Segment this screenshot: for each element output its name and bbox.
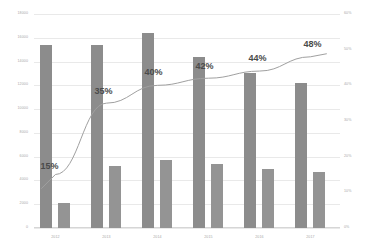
data-label-percent: 15% xyxy=(40,161,58,170)
y2-axis-tick-label: 50% xyxy=(344,48,366,52)
x-axis-tick-label: 2015 xyxy=(204,236,212,240)
y-axis-tick-label: 6000 xyxy=(0,155,28,159)
data-label-percent: 35% xyxy=(94,87,112,96)
data-label-percent: 40% xyxy=(144,68,162,77)
data-label-percent: 42% xyxy=(195,62,213,71)
x-axis-tick-label: 2016 xyxy=(255,236,263,240)
y-axis-tick-label: 16000 xyxy=(0,36,28,40)
trend-line[interactable] xyxy=(41,54,326,189)
combo-chart: 1800016000140001200010000800060004000200… xyxy=(0,0,368,252)
y-axis-tick-label: 0 xyxy=(0,226,28,230)
plot-area xyxy=(34,14,340,228)
y-axis-tick-label: 2000 xyxy=(0,202,28,206)
y2-axis-tick-label: 30% xyxy=(344,119,366,123)
y2-axis-tick-label: 60% xyxy=(344,12,366,16)
y2-axis-tick-label: 20% xyxy=(344,155,366,159)
trend-line-layer xyxy=(34,14,340,228)
y2-axis-tick-label: 0% xyxy=(344,226,366,230)
y-axis-tick-label: 14000 xyxy=(0,60,28,64)
y-axis-tick-label: 8000 xyxy=(0,131,28,135)
y2-axis-tick-label: 10% xyxy=(344,191,366,195)
x-axis-tick-label: 2014 xyxy=(153,236,161,240)
y2-axis-tick-label: 40% xyxy=(344,84,366,88)
x-axis-tick-label: 2013 xyxy=(102,236,110,240)
y-axis-tick-label: 10000 xyxy=(0,107,28,111)
x-axis-tick-label: 2017 xyxy=(306,236,314,240)
gridline xyxy=(34,228,340,229)
data-label-percent: 44% xyxy=(248,54,266,63)
data-label-percent: 48% xyxy=(303,39,321,48)
y-axis-tick-label: 18000 xyxy=(0,12,28,16)
x-axis-tick-label: 2012 xyxy=(51,236,59,240)
y-axis-tick-label: 4000 xyxy=(0,179,28,183)
y-axis-tick-label: 12000 xyxy=(0,84,28,88)
